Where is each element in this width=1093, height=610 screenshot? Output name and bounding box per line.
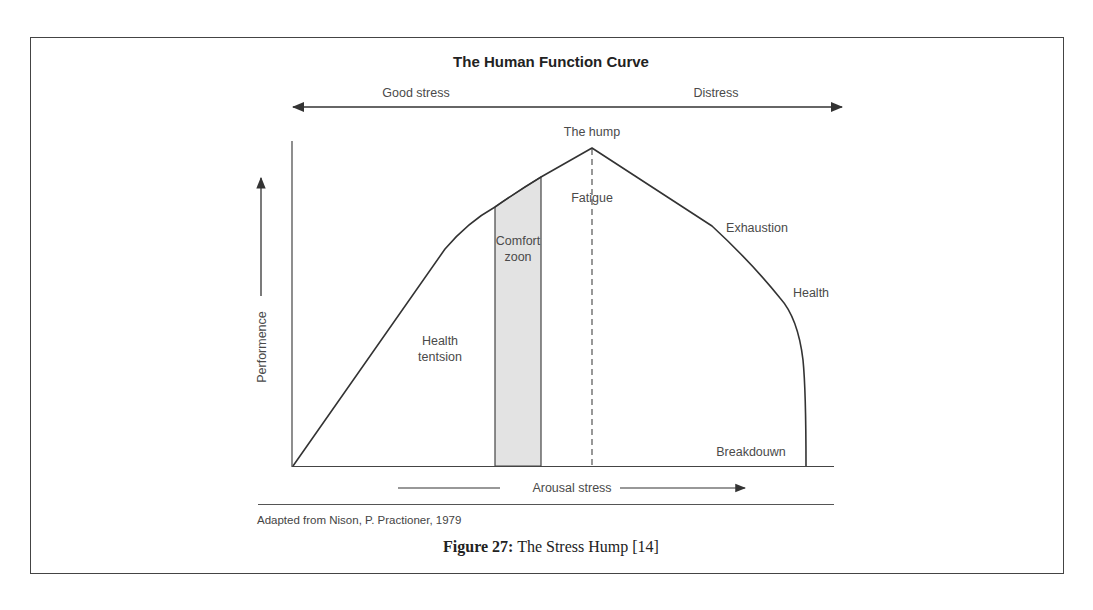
- x-axis-label: Arousal stress: [532, 481, 611, 495]
- good-stress-label: Good stress: [382, 86, 449, 100]
- comfort-label-line2: zoon: [504, 250, 531, 264]
- stress-hump-diagram: The Human Function Curve Good stress Dis…: [0, 0, 1093, 610]
- fatigue-label: Fatigue: [571, 191, 613, 205]
- y-axis-label: Performence: [255, 311, 269, 383]
- source-note: Adapted from Nison, P. Practioner, 1979: [257, 514, 461, 526]
- function-curve: [293, 148, 806, 466]
- comfort-label-line1: Comfort: [496, 234, 541, 248]
- health-tension-label-line2: tentsion: [418, 350, 462, 364]
- chart-title: The Human Function Curve: [453, 53, 649, 70]
- comfort-zone-band: [495, 177, 541, 466]
- figure-caption: Figure 27: The Stress Hump [14]: [443, 538, 659, 556]
- caption-number: Figure 27:: [443, 538, 513, 556]
- health-tension-label-line1: Health: [422, 334, 458, 348]
- distress-label: Distress: [693, 86, 738, 100]
- breakdown-label: Breakdouwn: [716, 445, 786, 459]
- hump-label: The hump: [564, 125, 620, 139]
- health-label: Health: [793, 286, 829, 300]
- caption-text: The Stress Hump [14]: [513, 538, 658, 556]
- exhaustion-label: Exhaustion: [726, 221, 788, 235]
